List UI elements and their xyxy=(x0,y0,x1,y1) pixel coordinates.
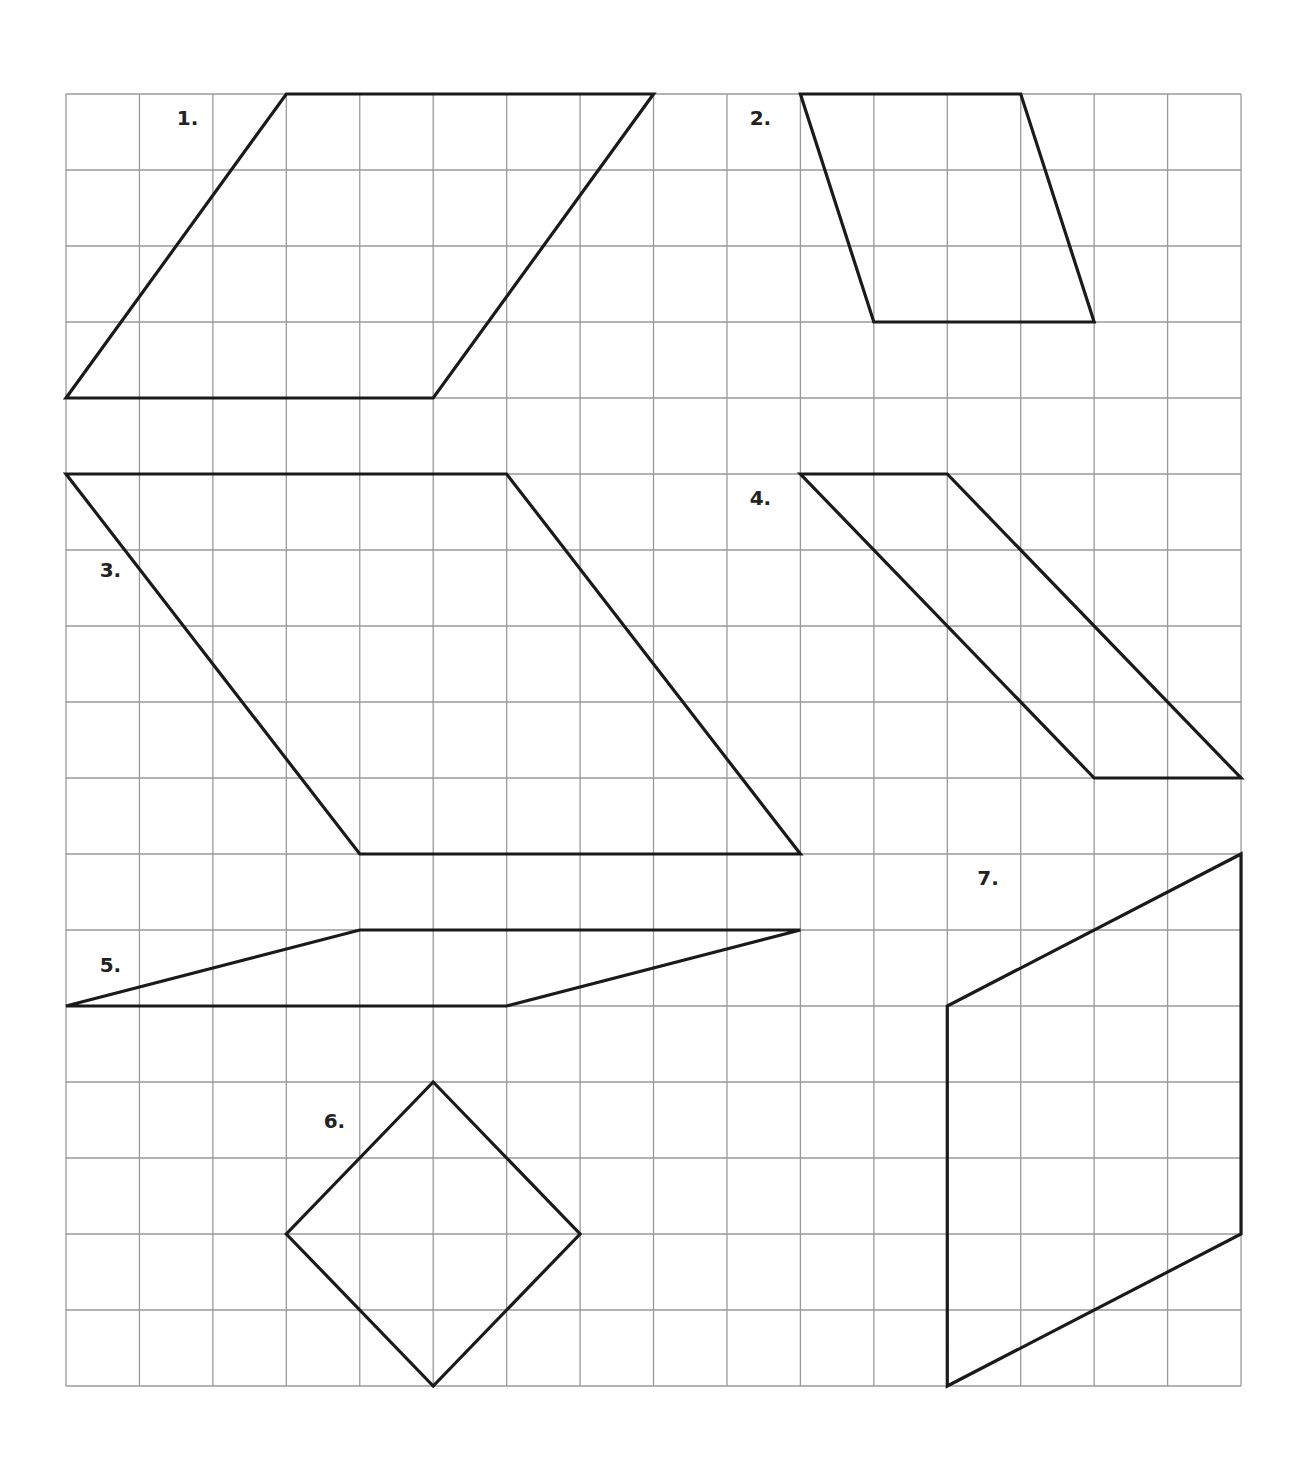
worksheet: 1. 2. 3. 4. 5. 6. 7. xyxy=(0,0,1294,1462)
shape-label-5: 5. xyxy=(100,953,122,977)
shape-label-2: 2. xyxy=(750,106,772,130)
shape-label-1: 1. xyxy=(177,106,199,130)
shape-label-3: 3. xyxy=(100,558,122,582)
shape-label-7: 7. xyxy=(977,866,999,890)
shape-label-4: 4. xyxy=(750,486,772,510)
shape-label-6: 6. xyxy=(324,1109,346,1133)
graph-paper-grid xyxy=(0,0,1294,1462)
